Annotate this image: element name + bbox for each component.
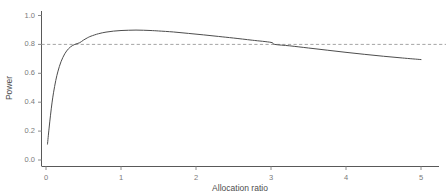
data-series-group xyxy=(48,30,422,144)
y-tick-label: 0.8 xyxy=(14,41,35,49)
power-allocation-chart: 0.00.20.40.60.81.0 012345 Power Allocati… xyxy=(0,0,446,195)
y-tick-label: 0.2 xyxy=(14,127,35,135)
y-tick-label: 0.0 xyxy=(14,156,35,164)
y-tick-label: 1.0 xyxy=(14,12,35,20)
data-series-line xyxy=(48,30,422,144)
x-tick-label: 3 xyxy=(269,174,273,182)
y-tick-label: 0.4 xyxy=(14,98,35,106)
x-tick-label: 0 xyxy=(44,174,48,182)
y-tick-label: 0.6 xyxy=(14,70,35,78)
x-tick-label: 1 xyxy=(119,174,123,182)
x-tick-label: 5 xyxy=(419,174,423,182)
x-axis-title: Allocation ratio xyxy=(212,184,268,193)
x-tick-label: 4 xyxy=(344,174,348,182)
y-tick-marks xyxy=(38,16,42,161)
y-axis-title: Power xyxy=(5,76,14,100)
plot-canvas xyxy=(0,0,446,195)
x-tick-label: 2 xyxy=(194,174,198,182)
x-tick-marks xyxy=(46,167,421,171)
